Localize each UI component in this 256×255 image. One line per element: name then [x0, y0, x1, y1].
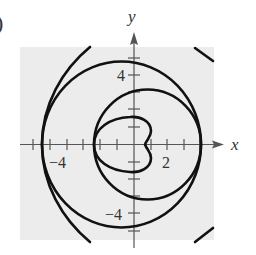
x-tick-label-neg4: −4	[49, 154, 66, 171]
panel-label: )	[0, 10, 3, 35]
x-tick-label-2: 2	[162, 154, 170, 171]
y-axis-label: y	[126, 7, 136, 26]
polar-graph-figure: ) x y −4 2 4 −4	[0, 0, 256, 255]
y-tick-label-neg4: −4	[105, 206, 122, 223]
x-axis-label: x	[230, 135, 239, 154]
y-tick-label-4: 4	[117, 67, 125, 84]
